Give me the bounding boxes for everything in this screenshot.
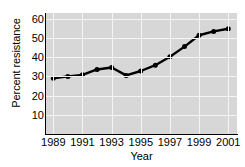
y-axis-tick-label: 20 xyxy=(18,90,44,102)
y-axis-tick-label: 50 xyxy=(18,32,44,44)
data-point xyxy=(153,63,158,68)
gridline-vertical xyxy=(199,13,200,134)
gridline-vertical xyxy=(82,13,83,134)
plot-area xyxy=(46,13,237,134)
x-axis-tick-label: 2001 xyxy=(216,136,240,148)
gridline-vertical xyxy=(53,13,54,134)
gridline-vertical xyxy=(112,13,113,134)
x-axis-tick-label: 1999 xyxy=(187,136,211,148)
chart-figure: Percent resistance 102030405060 19891991… xyxy=(0,0,245,167)
gridline-vertical xyxy=(141,13,142,134)
y-axis-tick-label: 30 xyxy=(18,70,44,82)
x-axis-tick-label: 1995 xyxy=(129,136,153,148)
x-axis-spine xyxy=(45,134,238,135)
x-axis-tick-label: 1993 xyxy=(99,136,123,148)
y-axis-tick-label: 10 xyxy=(18,109,44,121)
data-point xyxy=(182,44,187,49)
x-axis-tick-label: 1989 xyxy=(41,136,65,148)
data-point xyxy=(95,67,100,72)
y-axis-tick-label: 40 xyxy=(18,51,44,63)
y-axis-spine xyxy=(45,13,46,135)
y-axis-tick-label: 60 xyxy=(18,13,44,25)
x-axis-tick-label: 1991 xyxy=(70,136,94,148)
x-axis-tick-label: 1997 xyxy=(158,136,182,148)
data-point xyxy=(211,29,216,34)
gridline-vertical xyxy=(170,13,171,134)
x-axis-label: Year xyxy=(46,150,237,162)
gridline-vertical xyxy=(228,13,229,134)
